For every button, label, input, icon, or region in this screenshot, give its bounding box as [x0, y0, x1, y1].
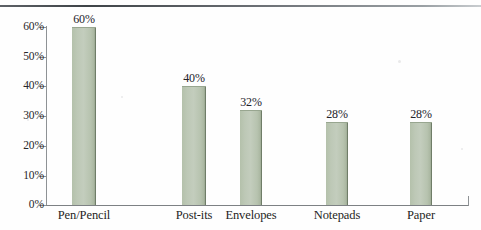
bar-value-post-its: 40%	[164, 72, 224, 84]
bar-top-edge	[72, 27, 96, 28]
bar-value-pen-pencil: 60%	[54, 13, 114, 25]
bar-top-edge	[240, 110, 262, 111]
top-border-rule	[0, 5, 481, 7]
bar-pen-pencil	[72, 27, 96, 205]
bar-top-edge	[182, 86, 206, 87]
scan-speckle	[398, 60, 401, 63]
y-axis-line	[46, 26, 47, 206]
x-axis-category-envelopes: Envelopes	[213, 209, 289, 222]
x-axis-category-pen-pencil: Pen/Pencil	[42, 209, 126, 222]
y-axis-label-20: 20%	[8, 140, 44, 152]
y-axis-label-50: 50%	[8, 51, 44, 63]
scan-speckle	[121, 96, 123, 98]
y-axis-label-30: 30%	[8, 110, 44, 122]
scan-speckle	[461, 148, 463, 150]
bar-notepads	[326, 122, 348, 205]
x-axis-category-paper: Paper	[387, 209, 455, 222]
bar-post-its	[182, 86, 206, 205]
x-axis-category-notepads: Notepads	[299, 209, 375, 222]
chart-figure: 60% 50% 40% 30% 20% 10% 0% 60% 40% 32% 2…	[0, 0, 481, 230]
bar-top-edge	[326, 122, 348, 123]
bar-top-edge	[410, 122, 432, 123]
x-axis-line	[46, 205, 469, 206]
y-axis-label-0: 0%	[8, 199, 44, 211]
bar-envelopes	[240, 110, 262, 205]
x-axis-end-tick	[468, 196, 469, 206]
bar-value-envelopes: 32%	[221, 96, 281, 108]
y-axis-label-40: 40%	[8, 80, 44, 92]
y-axis-label-60: 60%	[8, 21, 44, 33]
bar-paper	[410, 122, 432, 205]
y-axis-label-10: 10%	[8, 170, 44, 182]
bar-value-notepads: 28%	[307, 108, 367, 120]
bar-value-paper: 28%	[391, 108, 451, 120]
